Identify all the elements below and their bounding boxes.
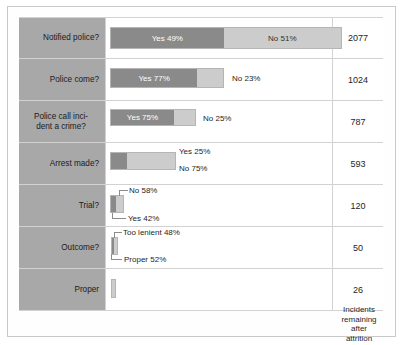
bar-external-label-no: No 58%: [129, 186, 157, 195]
bar-segment-no: [174, 110, 195, 125]
leader-line-yes: [112, 213, 126, 219]
stacked-bar: Yes 49% No 51%: [110, 27, 342, 49]
caption-line-3: after: [334, 324, 384, 334]
row-bar-cell: Yes 75% No 25%: [105, 101, 333, 142]
table-row: Police call inci- dent a crime? Yes 75% …: [19, 101, 383, 143]
row-bar-cell: Yes 25% No 75%: [105, 143, 333, 184]
table-row: Outcome? Too lenient 48% Proper 52% 50: [19, 227, 383, 269]
row-label-cell: Police come?: [19, 59, 105, 100]
row-label-cell: Trial?: [19, 185, 105, 226]
caption-line-2: remaining: [334, 315, 384, 325]
row-label: Police come?: [50, 75, 99, 85]
bar-external-label-yes: Yes 25%: [179, 147, 210, 156]
chart-frame: Notified police? Yes 49% No 51% 2077 Pol: [7, 6, 396, 337]
row-bar-cell: Too lenient 48% Proper 52%: [105, 227, 333, 268]
bar-segment-yes: Yes 77%: [111, 69, 197, 87]
row-label-line2: dent a crime?: [36, 122, 86, 131]
row-label-line1: Police call inci-: [34, 112, 88, 121]
bar-segment-no: [116, 196, 123, 212]
value-column-caption: Incidents remaining after attrition: [334, 305, 384, 343]
bar-segment-yes-label: Yes 77%: [138, 74, 169, 83]
bar-segment-yes-label: Yes 75%: [127, 113, 158, 122]
bar-segment-yes: Yes 75%: [111, 110, 174, 125]
row-label: Trial?: [79, 201, 99, 211]
table-row: Notified police? Yes 49% No 51% 2077: [19, 17, 383, 59]
row-label: Police call inci- dent a crime?: [34, 112, 88, 132]
bar-external-label-no: No 25%: [203, 114, 231, 123]
row-label-cell: Proper: [19, 269, 105, 310]
remaining-count-cell: 120: [333, 185, 383, 226]
leader-line-proper: [111, 254, 122, 260]
table-row: Proper 26: [19, 269, 383, 311]
bar-segment-yes: Yes 49%: [111, 28, 224, 48]
table-row: Arrest made? Yes 25% No 75% 593: [19, 143, 383, 185]
remaining-count: 1024: [348, 75, 368, 85]
remaining-count: 50: [353, 243, 363, 253]
bar-segment-no: [197, 69, 223, 87]
table-row: Police come? Yes 77% No 23% 1024: [19, 59, 383, 101]
bar-segment-no: No 51%: [224, 28, 341, 48]
remaining-count: 593: [350, 159, 365, 169]
bar-external-label-yes: Yes 42%: [128, 214, 159, 223]
attrition-funnel-table: Notified police? Yes 49% No 51% 2077 Pol: [19, 17, 383, 311]
row-label-cell: Arrest made?: [19, 143, 105, 184]
remaining-count-cell: 593: [333, 143, 383, 184]
remaining-count: 120: [350, 201, 365, 211]
stacked-bar: [111, 237, 118, 255]
row-bar-cell: Yes 77% No 23%: [105, 59, 333, 100]
remaining-count-cell: 787: [333, 101, 383, 142]
row-label-cell: Police call inci- dent a crime?: [19, 101, 105, 142]
bar-segment-no: [127, 153, 175, 169]
remaining-count-cell: 26: [333, 269, 383, 310]
row-bar-cell: Yes 49% No 51%: [105, 18, 333, 58]
remaining-count: 2077: [348, 33, 368, 43]
bar-external-label-no: No 75%: [179, 164, 207, 173]
stacked-bar: Yes 75%: [110, 109, 196, 126]
table-row: Trial? No 58% Yes 42% 120: [19, 185, 383, 227]
row-label: Notified police?: [43, 33, 99, 43]
row-label: Proper: [74, 285, 99, 295]
remaining-count: 787: [350, 117, 365, 127]
row-bar-cell: [105, 269, 333, 310]
stacked-bar: [110, 152, 176, 170]
bar-segment-proper: [114, 238, 117, 254]
leader-line-too-lenient: [114, 232, 122, 238]
row-bar-cell: No 58% Yes 42%: [105, 185, 333, 226]
remaining-count-cell: 1024: [333, 59, 383, 100]
bar-external-label-proper: Proper 52%: [124, 255, 166, 264]
row-label: Arrest made?: [50, 159, 99, 169]
row-label: Outcome?: [61, 243, 99, 253]
bar-external-label-no: No 23%: [232, 74, 260, 83]
bar-external-label-too-lenient: Too lenient 48%: [123, 228, 180, 237]
bar-segment-yes: [111, 153, 127, 169]
row-label-cell: Notified police?: [19, 18, 105, 58]
bar-segment-no-label: No 51%: [268, 34, 296, 43]
stacked-bar: [111, 279, 116, 298]
row-label-cell: Outcome?: [19, 227, 105, 268]
leader-line-no: [119, 190, 128, 196]
remaining-count-cell: 50: [333, 227, 383, 268]
caption-line-1: Incidents: [334, 305, 384, 315]
bar-segment-yes-label: Yes 49%: [152, 34, 183, 43]
remaining-count: 26: [353, 285, 363, 295]
caption-line-4: attrition: [334, 334, 384, 344]
stacked-bar: Yes 77%: [110, 68, 224, 88]
bar-segment-proper: [112, 280, 115, 297]
stacked-bar: [110, 195, 124, 213]
